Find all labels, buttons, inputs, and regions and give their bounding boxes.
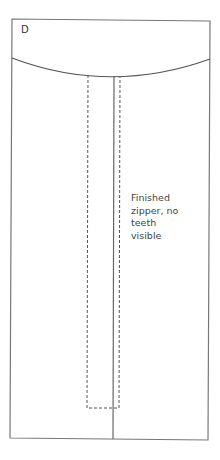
zipper-diagram: D Finished zipper, no teeth visible — [0, 0, 220, 460]
zipper-placement-outline — [87, 75, 120, 408]
annotation-line: zipper, no — [131, 205, 201, 218]
center-front-line — [113, 76, 114, 439]
annotation-line: teeth — [131, 217, 201, 230]
panel-label: D — [21, 24, 29, 36]
waistband-curve — [12, 58, 210, 77]
zipper-annotation: Finished zipper, no teeth visible — [131, 192, 201, 242]
annotation-line: visible — [131, 230, 201, 243]
annotation-line: Finished — [131, 192, 201, 205]
